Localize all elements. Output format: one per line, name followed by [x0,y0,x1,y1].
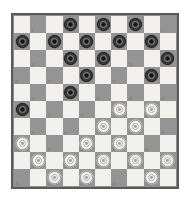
light-piece[interactable] [97,120,110,133]
light-piece[interactable] [97,154,110,167]
board-square[interactable] [111,16,127,33]
board-square[interactable]: 35 [160,118,176,135]
board-square[interactable]: 42 [63,152,79,169]
board-square[interactable]: 21 [30,84,46,101]
board-square[interactable] [46,118,62,135]
board-square[interactable] [30,135,46,152]
dark-piece[interactable] [97,18,110,31]
dark-piece[interactable] [48,35,61,48]
board-square[interactable] [127,169,143,186]
board-square[interactable] [160,169,176,186]
board-square[interactable]: 14 [127,50,143,67]
dark-piece[interactable] [80,69,93,82]
board-square[interactable] [95,169,111,186]
board-square[interactable]: 20 [144,67,160,84]
board-square[interactable]: 11 [30,50,46,67]
board-square[interactable]: 37 [46,135,62,152]
board-square[interactable] [14,84,30,101]
board-square[interactable]: 7 [46,33,62,50]
board-square[interactable]: 41 [30,152,46,169]
board-square[interactable] [127,67,143,84]
light-piece[interactable] [145,171,158,184]
board-square[interactable]: 48 [79,169,95,186]
board-square[interactable] [160,101,176,118]
light-piece[interactable] [113,103,126,116]
light-piece[interactable] [129,120,142,133]
board-square[interactable]: 25 [160,84,176,101]
board-square[interactable] [127,101,143,118]
board-square[interactable] [144,118,160,135]
board-square[interactable] [14,50,30,67]
board-square[interactable] [111,50,127,67]
board-square[interactable] [63,33,79,50]
board-square[interactable]: 22 [63,84,79,101]
board-square[interactable]: 47 [46,169,62,186]
board-square[interactable]: 36 [14,135,30,152]
board-square[interactable]: 8 [79,33,95,50]
board-square[interactable] [63,169,79,186]
board-square[interactable]: 45 [160,152,176,169]
board-square[interactable]: 2 [63,16,79,33]
board-square[interactable]: 31 [30,118,46,135]
board-square[interactable] [30,101,46,118]
board-square[interactable] [30,169,46,186]
board-square[interactable]: 44 [127,152,143,169]
board-square[interactable]: 39 [111,135,127,152]
board-square[interactable]: 34 [127,118,143,135]
board-square[interactable] [160,135,176,152]
board-square[interactable] [144,16,160,33]
light-piece[interactable] [32,154,45,167]
dark-piece[interactable] [97,52,110,65]
board-square[interactable]: 4 [127,16,143,33]
light-piece[interactable] [80,137,93,150]
board-square[interactable] [79,50,95,67]
board-square[interactable] [160,67,176,84]
board-square[interactable] [95,33,111,50]
board-square[interactable] [14,118,30,135]
board-square[interactable] [144,50,160,67]
board-square[interactable] [79,152,95,169]
board-square[interactable] [79,84,95,101]
board-square[interactable] [111,84,127,101]
board-square[interactable] [14,16,30,33]
board-square[interactable] [160,33,176,50]
board-square[interactable]: 50 [144,169,160,186]
light-piece[interactable] [145,103,158,116]
board-square[interactable] [46,84,62,101]
board-square[interactable]: 38 [79,135,95,152]
board-square[interactable]: 30 [144,101,160,118]
board-square[interactable]: 43 [95,152,111,169]
light-piece[interactable] [48,171,61,184]
dark-piece[interactable] [129,18,142,31]
dark-piece[interactable] [161,52,174,65]
dark-piece[interactable] [113,35,126,48]
board-square[interactable] [30,67,46,84]
board-square[interactable]: 15 [160,50,176,67]
board-square[interactable] [95,101,111,118]
board-square[interactable]: 5 [160,16,176,33]
board-square[interactable] [111,118,127,135]
board-square[interactable] [144,152,160,169]
board-square[interactable]: 9 [111,33,127,50]
board-square[interactable]: 26 [14,101,30,118]
board-square[interactable] [46,152,62,169]
light-piece[interactable] [16,137,29,150]
board-square[interactable]: 28 [79,101,95,118]
board-square[interactable]: 24 [127,84,143,101]
dark-piece[interactable] [64,86,77,99]
board-square[interactable]: 17 [46,67,62,84]
board-square[interactable]: 19 [111,67,127,84]
light-piece[interactable] [80,171,93,184]
board-square[interactable]: 32 [63,118,79,135]
board-square[interactable] [63,135,79,152]
dark-piece[interactable] [16,103,29,116]
board-square[interactable]: 49 [111,169,127,186]
board-square[interactable] [79,16,95,33]
board-square[interactable] [111,152,127,169]
board-square[interactable]: 27 [46,101,62,118]
board-square[interactable]: 29 [111,101,127,118]
board-square[interactable]: 16 [14,67,30,84]
dark-piece[interactable] [80,35,93,48]
board-square[interactable]: 18 [79,67,95,84]
board-square[interactable]: 23 [95,84,111,101]
